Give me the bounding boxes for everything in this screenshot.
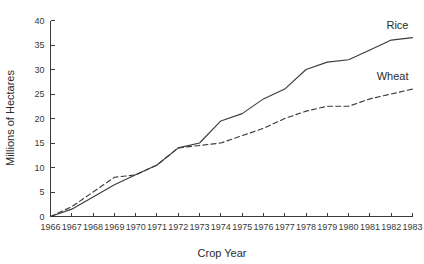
series-line-wheat (51, 89, 413, 216)
x-tick-label: 1970 (126, 222, 146, 232)
x-tick-label: 1979 (317, 222, 337, 232)
series-label-wheat: Wheat (377, 70, 409, 82)
x-tick-label: 1973 (190, 222, 210, 232)
data-series-group (51, 38, 413, 217)
y-axis-tick-labels: 0510152025303540 (34, 16, 44, 222)
y-axis-ticks (51, 21, 55, 217)
y-tick-label: 10 (34, 163, 44, 173)
x-tick-label: 1976 (253, 222, 273, 232)
x-tick-label: 1967 (62, 222, 82, 232)
x-tick-label: 1968 (83, 222, 103, 232)
x-axis-tick-labels: 1966196719681969197019711972197319741975… (40, 222, 422, 232)
y-tick-label: 5 (39, 187, 44, 197)
x-tick-label: 1981 (360, 222, 380, 232)
x-tick-label: 1974 (211, 222, 231, 232)
x-tick-label: 1983 (402, 222, 422, 232)
x-tick-label: 1971 (147, 222, 167, 232)
x-tick-label: 1978 (296, 222, 316, 232)
y-tick-label: 40 (34, 16, 44, 26)
x-tick-label: 1977 (275, 222, 295, 232)
x-tick-label: 1972 (168, 222, 188, 232)
y-tick-label: 25 (34, 89, 44, 99)
line-chart-canvas: 0510152025303540 19661967196819691970197… (0, 0, 424, 264)
x-tick-label: 1969 (104, 222, 124, 232)
series-line-rice (51, 38, 413, 217)
x-tick-label: 1966 (40, 222, 60, 232)
series-label-rice: Rice (386, 19, 408, 31)
y-tick-label: 20 (34, 114, 44, 124)
y-tick-label: 30 (34, 65, 44, 75)
chart-figure: 0510152025303540 19661967196819691970197… (0, 0, 424, 264)
x-axis-title: Crop Year (198, 247, 247, 259)
x-tick-label: 1982 (381, 222, 401, 232)
x-tick-label: 1980 (339, 222, 359, 232)
x-tick-label: 1975 (232, 222, 252, 232)
series-inline-labels: RiceWheat (377, 19, 409, 82)
x-axis-ticks (51, 213, 413, 217)
y-axis-title: Millions of Hectares (4, 70, 16, 166)
y-tick-label: 0 (39, 212, 44, 222)
y-tick-label: 15 (34, 138, 44, 148)
y-tick-label: 35 (34, 40, 44, 50)
